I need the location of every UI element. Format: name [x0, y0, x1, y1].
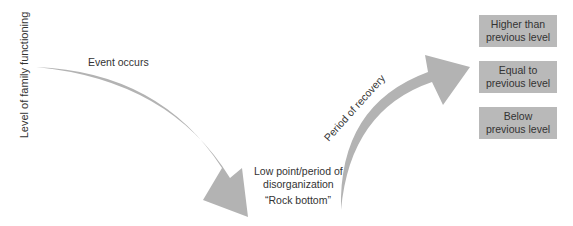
outcome-equal-line-1: Equal to — [499, 64, 538, 77]
rock-bottom-label: “Rock bottom” — [265, 194, 331, 207]
event-occurs-label: Event occurs — [88, 56, 149, 69]
recovery-arrow — [341, 55, 470, 210]
outcome-below-line-2: previous level — [486, 123, 550, 136]
outcome-higher-line-2: previous level — [486, 31, 550, 44]
outcome-higher-line-1: Higher than — [491, 18, 545, 31]
low-point-line-2: disorganization — [254, 178, 343, 191]
outcome-below-line-1: Below — [504, 110, 533, 123]
outcome-equal-box: Equal to previous level — [479, 61, 557, 93]
low-point-label: Low point/period of disorganization — [254, 165, 343, 191]
outcome-below-box: Below previous level — [479, 107, 557, 139]
decline-arrow — [36, 67, 248, 217]
y-axis-label: Level of family functioning — [18, 12, 31, 139]
outcome-equal-line-2: previous level — [486, 77, 550, 90]
family-functioning-diagram: Level of family functioning Event occurs… — [0, 0, 573, 226]
low-point-line-1: Low point/period of — [254, 165, 343, 178]
outcome-higher-box: Higher than previous level — [479, 15, 557, 47]
